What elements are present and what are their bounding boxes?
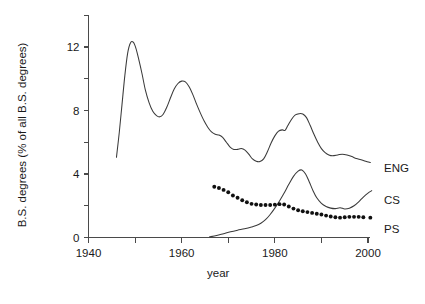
series-markers-ps [212, 185, 372, 220]
data-point-marker [368, 216, 372, 220]
y-axis-tick-label: 8 [73, 105, 79, 117]
series-label-cs: CS [384, 194, 400, 206]
data-point-marker [352, 215, 356, 219]
data-point-marker [240, 198, 244, 202]
x-axis-tick-label: 1980 [262, 247, 288, 259]
data-point-marker [324, 214, 328, 218]
data-point-marker [245, 200, 249, 204]
data-point-marker [236, 196, 240, 200]
x-axis-tick-label: 2000 [355, 247, 381, 259]
data-point-marker [217, 186, 221, 190]
data-point-marker [319, 213, 323, 217]
data-point-marker [231, 193, 235, 197]
y-axis-tick-label: 4 [73, 168, 80, 180]
axes-group: 04812 1940196019802000 [67, 15, 381, 258]
x-axis-tick-labels: 1940196019802000 [76, 247, 381, 259]
data-point-marker [305, 210, 309, 214]
data-point-marker [343, 215, 347, 219]
series-labels-group: ENG CS PS [384, 162, 409, 235]
series-line-cs [210, 170, 372, 237]
data-point-marker [282, 203, 286, 207]
data-point-marker [278, 202, 282, 206]
data-point-marker [357, 215, 361, 219]
y-axis-tick-label: 12 [67, 41, 80, 53]
data-point-marker [264, 203, 268, 207]
data-point-marker [273, 203, 277, 207]
data-point-marker [268, 203, 272, 207]
data-point-marker [254, 203, 258, 207]
data-point-marker [259, 203, 263, 207]
series-line-eng [116, 42, 370, 163]
data-point-marker [329, 215, 333, 219]
x-axis-tick-label: 1940 [76, 247, 102, 259]
series-label-eng: ENG [384, 162, 409, 174]
chart-container: 04812 1940196019802000 ENG CS PS year B.… [0, 0, 425, 304]
data-point-marker [296, 208, 300, 212]
data-point-marker [287, 205, 291, 209]
data-point-marker [212, 185, 216, 189]
series-group [116, 42, 372, 237]
x-axis-title: year [207, 267, 230, 279]
y-axis-tick-labels: 04812 [67, 41, 80, 244]
data-point-marker [361, 215, 365, 219]
data-point-marker [226, 190, 230, 194]
data-point-marker [310, 211, 314, 215]
data-point-marker [338, 216, 342, 220]
x-axis-tick-label: 1960 [169, 247, 195, 259]
data-point-marker [347, 215, 351, 219]
y-axis-title: B.S. degrees (% of all B.S. degrees) [16, 42, 28, 227]
y-axis-tick-label: 0 [73, 232, 79, 244]
data-point-marker [301, 209, 305, 213]
data-point-marker [292, 207, 296, 211]
data-point-marker [333, 215, 337, 219]
series-label-ps: PS [384, 223, 400, 235]
x-axis-ticks [89, 238, 369, 243]
data-point-marker [250, 202, 254, 206]
y-axis-ticks [84, 15, 89, 237]
data-point-marker [222, 188, 226, 192]
chart-svg: 04812 1940196019802000 ENG CS PS year B.… [0, 0, 425, 304]
data-point-marker [315, 212, 319, 216]
